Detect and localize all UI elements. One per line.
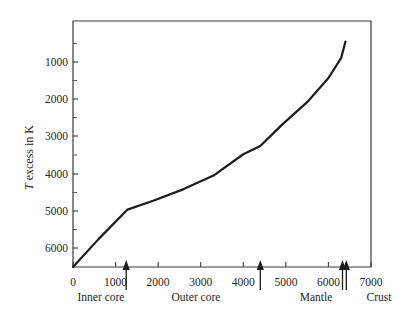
- y-axis-ticks: [73, 44, 78, 249]
- y-tick-label: 6000: [45, 242, 68, 254]
- x-tick-label: 1000: [104, 276, 127, 288]
- svg-text:T excess in K: T excess in K: [22, 125, 36, 190]
- x-tick-label: 7000: [360, 276, 383, 288]
- chart-svg: 1000 2000 3000 4000 5000 6000 T excess i…: [0, 0, 408, 320]
- x-tick-label: 2000: [147, 276, 170, 288]
- region-label-outer-core: Outer core: [172, 291, 221, 303]
- x-axis-ticks: [73, 262, 371, 267]
- plot-frame: [73, 21, 371, 267]
- y-tick-label: 3000: [45, 130, 68, 142]
- region-label-inner-core: Inner core: [78, 291, 125, 303]
- y-axis-tick-labels: 1000 2000 3000 4000 5000 6000: [45, 56, 68, 254]
- y-axis-title-rest: excess in K: [22, 125, 36, 184]
- x-tick-label: 6000: [317, 276, 340, 288]
- y-axis-title: T excess in K: [22, 125, 36, 190]
- y-tick-label: 2000: [45, 93, 68, 105]
- x-tick-label: 3000: [189, 276, 212, 288]
- x-tick-label: 4000: [232, 276, 255, 288]
- x-axis-tick-labels: 0 1000 2000 3000 4000 5000 6000 7000: [70, 276, 383, 288]
- y-tick-label: 4000: [45, 168, 68, 180]
- region-labels: Inner core Outer core Mantle Crust: [78, 291, 393, 303]
- y-tick-label: 1000: [45, 56, 68, 68]
- temperature-excess-curve: [73, 42, 345, 268]
- chart-figure: 1000 2000 3000 4000 5000 6000 T excess i…: [0, 0, 408, 320]
- region-label-crust: Crust: [367, 291, 393, 303]
- boundary-arrow-outer-core: [257, 260, 264, 290]
- region-label-mantle: Mantle: [300, 291, 333, 303]
- x-tick-label: 0: [70, 276, 76, 288]
- y-tick-label: 5000: [45, 205, 68, 217]
- x-tick-label: 5000: [274, 276, 297, 288]
